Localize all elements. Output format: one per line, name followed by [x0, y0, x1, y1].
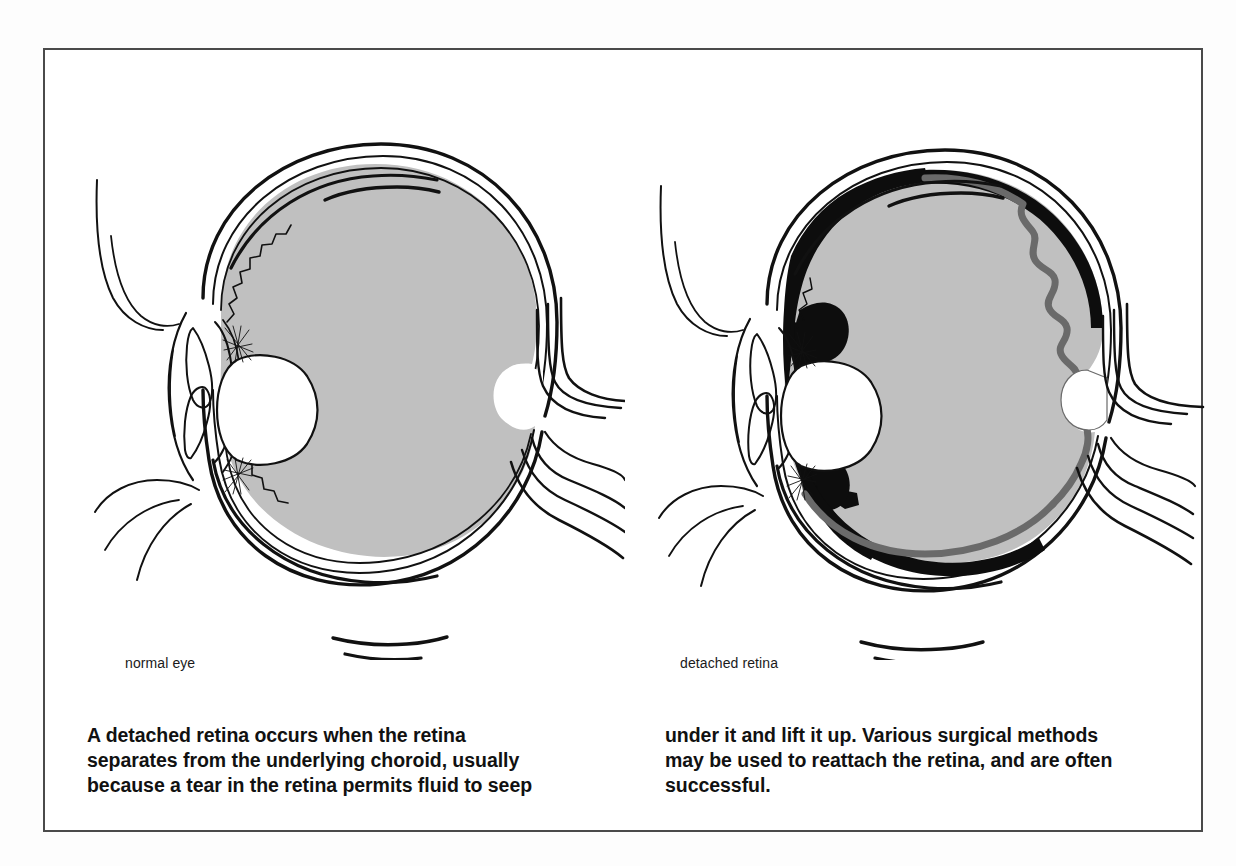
conjunctiva-lower	[659, 486, 763, 518]
optic-nerve-sheath-l2	[1088, 456, 1193, 538]
caption-detached-retina: detached retina	[680, 655, 778, 671]
detached-retina-illustration	[625, 60, 1205, 660]
optic-nerve-sheath-u2	[1114, 310, 1187, 414]
conjunctiva-upper	[661, 186, 727, 336]
conjunctiva-lower	[95, 480, 199, 512]
muscle-tendon-bottom-2	[861, 642, 983, 650]
muscle-tendon-bottom-3	[875, 658, 955, 660]
conjunctiva-upper	[97, 180, 163, 330]
lens	[781, 361, 882, 471]
optic-nerve-sheath-u3	[561, 298, 625, 401]
description-text-right: under it and lift it up. Various surgica…	[665, 723, 1135, 798]
description-text-left: A detached retina occurs when the retina…	[87, 723, 557, 798]
muscle-tendon-bottom-2	[333, 637, 447, 645]
description-paragraph-right: under it and lift it up. Various surgica…	[665, 723, 1135, 798]
optic-nerve-sheath-l1	[532, 438, 625, 508]
optic-nerve-sheath-l1	[1098, 444, 1193, 514]
optic-disc	[497, 364, 543, 424]
cornea	[733, 319, 757, 486]
conjunctiva-lower-inner	[105, 500, 179, 550]
description-paragraph-left: A detached retina occurs when the retina…	[87, 723, 557, 798]
conjunctiva-lower-inner	[669, 506, 743, 556]
conjunctiva-lower-outer	[137, 504, 191, 580]
conjunctiva-upper-inner	[675, 242, 743, 332]
optic-nerve-sheath-l4	[1111, 438, 1195, 486]
cornea	[169, 313, 193, 480]
normal-eye-illustration	[45, 60, 625, 660]
panel-normal-eye: normal eye A detached retina occurs when…	[45, 50, 625, 834]
conjunctiva-upper-inner	[111, 236, 179, 326]
caption-normal-eye: normal eye	[125, 655, 195, 671]
conjunctiva-lower-outer	[701, 510, 755, 586]
lens	[217, 355, 318, 465]
muscle-tendon-bottom-3	[345, 654, 421, 660]
optic-disc	[1061, 370, 1107, 430]
optic-nerve-sheath-u3	[1127, 304, 1203, 407]
optic-nerve-sheath-l2	[522, 450, 625, 532]
panel-detached-retina: detached retina under it and lift it up.…	[625, 50, 1203, 834]
figure-frame: normal eye A detached retina occurs when…	[43, 48, 1203, 832]
